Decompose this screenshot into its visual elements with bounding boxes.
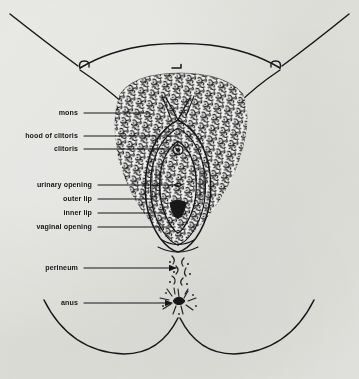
navel-mark xyxy=(172,65,181,69)
label-mons: mons xyxy=(0,109,78,117)
label-perineum: perineum xyxy=(0,264,78,272)
label-anus: anus xyxy=(0,299,78,307)
anatomy-diagram xyxy=(0,0,359,379)
label-clitoris: clitoris xyxy=(0,145,78,153)
hip-marks xyxy=(80,61,281,68)
label-urinary-opening: urinary opening xyxy=(0,181,92,189)
label-vaginal-opening: vaginal opening xyxy=(0,223,92,231)
label-inner-lip: inner lip xyxy=(0,209,92,217)
perineum-region xyxy=(169,256,191,285)
anus-detail xyxy=(160,288,197,315)
label-outer-lip: outer lip xyxy=(0,195,92,203)
pubic-hair-region xyxy=(100,60,260,260)
label-hood-of-clitoris: hood of clitoris xyxy=(0,132,78,140)
